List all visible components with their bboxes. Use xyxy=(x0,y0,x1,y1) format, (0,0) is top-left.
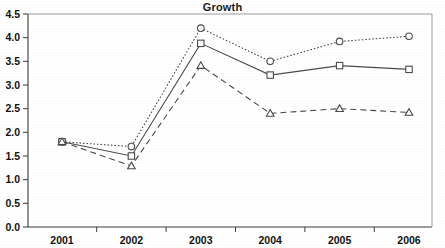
series-layer xyxy=(58,25,413,169)
series-triangle xyxy=(58,62,413,169)
y-tick-label: 4.0 xyxy=(5,31,20,43)
x-axis-tick-group xyxy=(97,227,375,232)
series-circle xyxy=(59,25,413,150)
y-tick-label: 1.5 xyxy=(5,150,20,162)
y-tick-label: 4.5 xyxy=(5,8,20,20)
series-line-square xyxy=(62,43,409,156)
series-line-triangle xyxy=(62,66,409,166)
x-tick-label: 2001 xyxy=(50,234,74,246)
data-point-square xyxy=(267,72,273,78)
x-tick-label: 2003 xyxy=(189,234,213,246)
plot-frame xyxy=(28,14,432,227)
data-point-circle xyxy=(198,25,205,32)
data-point-square xyxy=(406,66,412,72)
data-point-triangle xyxy=(197,62,205,69)
y-tick-label: 0.5 xyxy=(5,197,20,209)
x-tick-label: 2002 xyxy=(120,234,144,246)
series-line-circle xyxy=(62,28,409,146)
data-point-circle xyxy=(128,143,135,150)
data-point-triangle xyxy=(336,105,344,112)
data-point-square xyxy=(336,62,342,68)
x-tick-label: 2005 xyxy=(328,234,352,246)
x-tick-label: 2006 xyxy=(397,234,421,246)
plot-area: 0.00.51.01.52.02.53.03.54.04.5 200120022… xyxy=(0,0,445,248)
y-tick-label: 2.0 xyxy=(5,126,20,138)
growth-line-chart: Growth 0.00.51.01.52.02.53.03.54.04.5 20… xyxy=(0,0,445,248)
y-tick-label: 3.5 xyxy=(5,55,20,67)
x-axis-label-group: 200120022003200420052006 xyxy=(50,234,421,246)
y-tick-label: 3.0 xyxy=(5,79,20,91)
y-tick-label: 0.0 xyxy=(5,221,20,233)
x-tick-label: 2004 xyxy=(259,234,283,246)
data-point-triangle xyxy=(405,109,413,116)
y-axis-tick-group: 0.00.51.01.52.02.53.03.54.04.5 xyxy=(5,8,28,233)
series-square xyxy=(59,40,412,159)
y-tick-label: 2.5 xyxy=(5,102,20,114)
data-point-square xyxy=(128,153,134,159)
data-point-circle xyxy=(406,33,413,40)
data-point-circle xyxy=(336,38,343,45)
data-point-circle xyxy=(267,58,274,65)
y-tick-label: 1.0 xyxy=(5,173,20,185)
data-point-square xyxy=(198,40,204,46)
